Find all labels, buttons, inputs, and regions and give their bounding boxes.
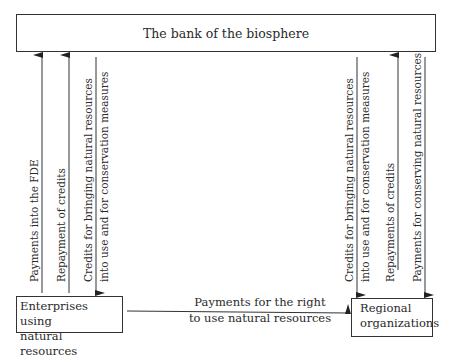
label-payments-fde: Payments into the FDE	[28, 159, 41, 282]
label-credits-right-2: into use and for conservation measures	[359, 72, 372, 282]
label-credits-left-1: Credits for bringing natural resources	[82, 78, 95, 282]
label-repayment-left: Repayment of credits	[55, 168, 68, 282]
label-credits-left-2: into use and for conservation measures	[98, 72, 111, 282]
regional-line2: organizations	[360, 316, 424, 331]
payments-right-line1: Payments for the right	[180, 294, 340, 310]
label-repayments-right: Repayments of credits	[384, 163, 397, 282]
enterprises-box: Enterprises using natural resources	[16, 296, 123, 333]
enterprises-line2: natural resources	[20, 329, 119, 359]
payments-right-line2: to use natural resources	[180, 310, 340, 326]
label-payments-right: Payments for the right to use natural re…	[180, 294, 340, 326]
enterprises-line1: Enterprises using	[20, 299, 119, 329]
regional-organizations-box: Regional organizations	[351, 298, 433, 337]
regional-line1: Regional	[360, 301, 424, 316]
label-credits-right-1: Credits for bringing natural resources	[343, 78, 356, 282]
label-payments-conserving: Payments for conserving natural resource…	[411, 53, 424, 282]
